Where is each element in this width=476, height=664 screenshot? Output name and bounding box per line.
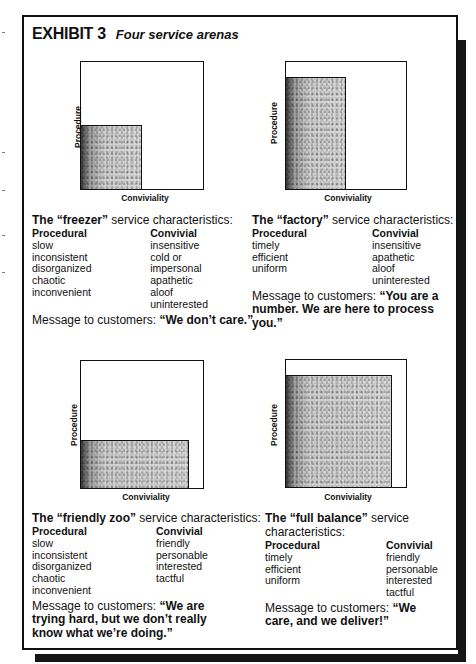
arena-heading: The “factory” service characteristics: (252, 213, 452, 227)
message-to-customers: Message to customers: “You are a number.… (252, 290, 458, 331)
procedural-list: Procedural slow inconsistent disorganize… (32, 228, 150, 311)
procedural-list: Procedural timely efficient uniform (252, 228, 372, 287)
exhibit-subtitle: Four service arenas (116, 27, 239, 42)
margin-tick (2, 32, 5, 33)
x-axis-label: Conviviality (111, 492, 181, 502)
chart-filled-area (80, 125, 142, 190)
y-axis-label: Procedure (269, 395, 279, 455)
margin-tick (2, 272, 5, 273)
arena-heading: The “friendly zoo” service characteristi… (32, 511, 247, 525)
arena-friendly-zoo-description: The “friendly zoo” service characteristi… (32, 511, 247, 640)
y-axis-label: Procedure (73, 97, 83, 157)
x-axis-label: Conviviality (313, 193, 383, 203)
arena-freezer-description: The “freezer” service characteristics: P… (32, 213, 232, 327)
message-to-customers: Message to customers: “We care, and we d… (265, 602, 445, 629)
x-axis-label: Conviviality (110, 193, 180, 203)
y-axis-label: Procedure (269, 93, 279, 153)
margin-tick (2, 190, 5, 191)
exhibit-title: EXHIBIT 3Four service arenas (32, 25, 239, 43)
procedural-list: Procedural slow inconsistent disorganize… (32, 526, 156, 597)
exhibit-number: EXHIBIT 3 (32, 25, 106, 42)
chart-filled-area (80, 440, 189, 489)
message-to-customers: Message to customers: “We are trying har… (32, 600, 237, 641)
convivial-list: Convivial insensitive apathetic aloof un… (372, 228, 430, 287)
arena-factory-description: The “factory” service characteristics: P… (252, 213, 452, 330)
x-axis-label: Conviviality (313, 492, 383, 502)
frame-shadow-bottom (35, 654, 466, 662)
message-to-customers: Message to customers: “We don’t care.” (32, 314, 232, 328)
convivial-list: Convivial insensitive cold or impersonal… (150, 228, 232, 311)
y-axis-label: Procedure (69, 395, 79, 455)
arena-heading: The “full balance” service characteristi… (265, 511, 445, 539)
procedural-list: Procedural timely efficient uniform (265, 540, 386, 599)
margin-tick (2, 235, 5, 236)
margin-tick (2, 152, 5, 153)
arena-heading: The “freezer” service characteristics: (32, 213, 232, 227)
convivial-list: Convivial friendly personable interested… (156, 526, 208, 597)
chart-filled-area (285, 375, 392, 488)
frame-shadow-right (458, 40, 466, 662)
arena-full-balance-description: The “full balance” service characteristi… (265, 511, 445, 629)
chart-filled-area (285, 77, 346, 190)
convivial-list: Convivial friendly personable interested… (386, 540, 438, 599)
